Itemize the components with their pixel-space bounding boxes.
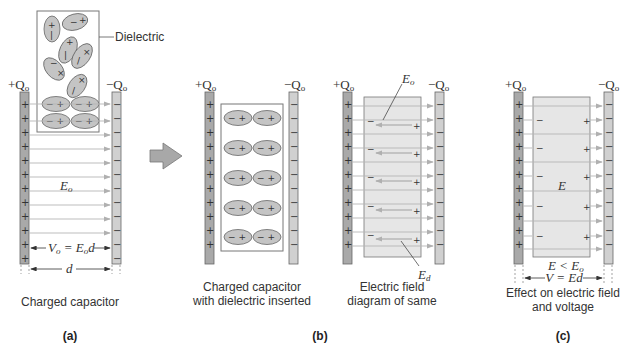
svg-text:+: + bbox=[206, 211, 214, 222]
positive-charge-label: +Qo bbox=[8, 77, 30, 93]
svg-text:+: + bbox=[515, 113, 523, 124]
panel-label-b: (b) bbox=[312, 329, 327, 343]
svg-text:− +: − + bbox=[257, 143, 275, 153]
svg-text:+: + bbox=[344, 99, 352, 110]
svg-text:+: + bbox=[344, 225, 352, 236]
svg-text:+: + bbox=[21, 155, 29, 166]
svg-text:−: − bbox=[436, 239, 444, 250]
svg-text:−: − bbox=[436, 169, 444, 180]
svg-text:+: + bbox=[344, 197, 352, 208]
svg-text:+: + bbox=[413, 235, 421, 245]
svg-text:+Qo: +Qo bbox=[505, 77, 527, 93]
svg-text:−: − bbox=[367, 230, 375, 240]
svg-text:+: + bbox=[21, 141, 29, 152]
svg-text:+: + bbox=[79, 15, 87, 25]
svg-text:−: − bbox=[605, 211, 613, 222]
svg-text:−: − bbox=[367, 172, 375, 182]
caption-b-left-2: with dielectric inserted bbox=[192, 294, 311, 308]
svg-text:+: + bbox=[583, 172, 591, 182]
panel-b-inserted: +Qo −Qo − +− + − +− + − +− + − +− + − +−… bbox=[192, 77, 311, 308]
dielectric-label: Dielectric bbox=[115, 30, 164, 44]
svg-text:−: − bbox=[605, 127, 613, 138]
svg-text:+: + bbox=[344, 141, 352, 152]
svg-text:|: | bbox=[64, 50, 67, 60]
svg-text:−: − bbox=[290, 239, 298, 250]
svg-text:− +: − + bbox=[228, 173, 246, 183]
svg-text:|: | bbox=[50, 30, 53, 40]
svg-text:+: + bbox=[515, 169, 523, 180]
svg-text:−: − bbox=[436, 183, 444, 194]
svg-text:−Qo: −Qo bbox=[598, 77, 620, 93]
svg-text:+: + bbox=[344, 155, 352, 166]
svg-text:+: + bbox=[48, 20, 56, 30]
svg-text:−: − bbox=[113, 225, 121, 236]
panel-b-field: +Qo −Qo −+ −+ −+ −+ −+ bbox=[312, 71, 449, 343]
svg-text:−: − bbox=[605, 141, 613, 152]
svg-text:−: − bbox=[113, 239, 121, 250]
svg-text:−: − bbox=[605, 183, 613, 194]
svg-text:+: + bbox=[206, 127, 214, 138]
caption-c-1: Effect on electric field bbox=[506, 286, 620, 300]
svg-text:+: + bbox=[21, 225, 29, 236]
svg-text:−: − bbox=[70, 17, 78, 27]
svg-text:+: + bbox=[515, 211, 523, 222]
svg-text:×: × bbox=[78, 75, 86, 85]
svg-text:×: × bbox=[57, 68, 65, 78]
svg-text:−: − bbox=[113, 155, 121, 166]
svg-text:+: + bbox=[206, 155, 214, 166]
svg-text:+: + bbox=[21, 239, 29, 250]
distance-label-a: d bbox=[66, 261, 73, 276]
svg-text:+: + bbox=[515, 141, 523, 152]
svg-text:−: − bbox=[113, 99, 121, 110]
svg-text:+: + bbox=[21, 253, 29, 264]
svg-text:+: + bbox=[515, 225, 523, 236]
voltage-equation-c: V = Ed bbox=[545, 270, 583, 285]
svg-text:+: + bbox=[583, 202, 591, 212]
svg-text:−: − bbox=[290, 141, 298, 152]
svg-text:−: − bbox=[367, 201, 375, 211]
svg-text:+: + bbox=[206, 99, 214, 110]
svg-text:−: − bbox=[436, 155, 444, 166]
svg-text:+: + bbox=[21, 211, 29, 222]
svg-text:−: − bbox=[290, 197, 298, 208]
svg-text:−Qo: −Qo bbox=[428, 77, 450, 93]
svg-text:+: + bbox=[515, 239, 523, 250]
negative-charge-label: −Qo bbox=[106, 77, 128, 93]
svg-text:−: − bbox=[113, 141, 121, 152]
svg-text:+: + bbox=[413, 149, 421, 159]
caption-b-right-2: diagram of same bbox=[347, 294, 437, 308]
panel-label-c: (c) bbox=[556, 329, 571, 343]
svg-text:+: + bbox=[344, 239, 352, 250]
svg-text:−: − bbox=[113, 197, 121, 208]
svg-text:+Qo: +Qo bbox=[333, 77, 355, 93]
svg-text:−: − bbox=[113, 183, 121, 194]
svg-text:−: − bbox=[290, 99, 298, 110]
svg-text:−: − bbox=[536, 231, 544, 241]
svg-text:−: − bbox=[113, 113, 121, 124]
svg-text:+Qo: +Qo bbox=[195, 77, 217, 93]
voltage-equation-a: Vo = Eod bbox=[48, 240, 95, 256]
caption-a: Charged capacitor bbox=[21, 295, 119, 309]
svg-text:+: + bbox=[21, 99, 29, 110]
svg-text:−: − bbox=[113, 127, 121, 138]
caption-b-left-1: Charged capacitor bbox=[203, 280, 301, 294]
svg-text:+: + bbox=[66, 37, 74, 47]
svg-text:+: + bbox=[515, 183, 523, 194]
svg-text:− +: − + bbox=[228, 143, 246, 153]
svg-text:+: + bbox=[515, 155, 523, 166]
svg-text:−: − bbox=[436, 141, 444, 152]
svg-text:− +: − + bbox=[257, 203, 275, 213]
capacitor-dielectric-figure: Dielectric +| −+ +| ×/ −× ×/ − +− + bbox=[0, 0, 633, 356]
svg-text:−: − bbox=[50, 58, 58, 68]
svg-text:+: + bbox=[413, 206, 421, 216]
svg-text:− +: − + bbox=[228, 203, 246, 213]
svg-text:+: + bbox=[344, 211, 352, 222]
panel-a: Dielectric +| −+ +| ×/ −× ×/ − +− + bbox=[8, 11, 164, 343]
svg-text:−Qo: −Qo bbox=[284, 77, 306, 93]
svg-text:+: + bbox=[21, 183, 29, 194]
svg-text:+: + bbox=[583, 232, 591, 242]
svg-text:−: − bbox=[290, 113, 298, 124]
svg-text:+: + bbox=[206, 113, 214, 124]
svg-text:− +: − + bbox=[257, 232, 275, 242]
svg-text:−: − bbox=[113, 211, 121, 222]
